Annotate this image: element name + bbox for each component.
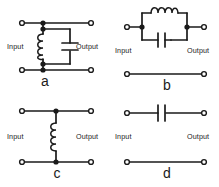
junction-dots-b [139,24,189,29]
input-label-b: Input [115,47,132,54]
input-label-d: Input [115,133,132,140]
junction-dot [40,20,45,25]
terminal-output-bottom [202,72,207,77]
circuit-figure: Input Output a [0,0,219,187]
output-label-a: Output [76,43,98,50]
terminal-input-bottom [20,160,25,165]
junction-dot [184,24,189,29]
terminal-input-top [125,111,130,116]
panel-caption-a: a [37,74,53,88]
panel-caption-c: c [49,166,65,180]
junction-dots-a [40,20,45,72]
input-label-a: Input [7,43,24,50]
terminal-output-bottom [202,160,207,165]
junction-dot [40,61,45,66]
circuit-panel-d: Input Output d [110,94,219,187]
junction-dot [53,108,58,113]
junction-dot [40,26,45,31]
terminal-input-bottom [125,72,130,77]
input-label-c: Input [7,133,24,140]
terminal-output-top [202,25,207,30]
terminal-input-bottom [125,160,130,165]
output-label-c: Output [76,133,98,140]
terminal-output-top [89,109,94,114]
junction-dot [139,24,144,29]
output-label-b: Output [187,47,209,54]
terminal-input-top [125,25,130,30]
circuit-panel-b: Input Output b [110,0,219,94]
inductor-coil-a [38,34,43,60]
terminal-output-bottom [89,68,94,73]
terminal-output-top [89,21,94,26]
inductor-coil-c [51,123,56,151]
terminal-input-top [20,109,25,114]
terminal-output-bottom [89,160,94,165]
terminal-input-top [20,21,25,26]
circuit-panel-a: Input Output a [0,0,110,94]
terminal-output-top [202,111,207,116]
output-label-d: Output [187,133,209,140]
panel-caption-b: b [159,78,175,92]
circuit-panel-c: Input Output c [0,94,110,187]
inductor-coil-b [151,8,178,13]
junction-dot [40,67,45,72]
terminal-input-bottom [20,68,25,73]
panel-caption-d: d [159,166,175,180]
junction-dot [53,159,58,164]
